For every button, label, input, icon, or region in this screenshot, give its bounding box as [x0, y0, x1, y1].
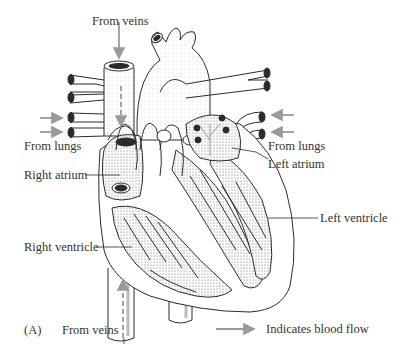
label-left-atrium: Left atrium [268, 157, 325, 171]
label-left-ventricle: Left ventricle [320, 211, 388, 225]
label-from-lungs-right: From lungs [268, 139, 325, 153]
label-from-veins-top: From veins [92, 14, 149, 28]
label-right-ventricle: Right ventricle [24, 240, 99, 254]
pulmonary-vessels-left [68, 75, 104, 138]
label-from-veins-bottom: From veins [62, 323, 119, 337]
legend-text: Indicates blood flow [266, 322, 369, 336]
label-right-atrium: Right atrium [24, 168, 88, 182]
panel-label: (A) [24, 323, 41, 337]
label-from-lungs-left: From lungs [24, 139, 81, 153]
superior-vena-cava [104, 61, 134, 136]
